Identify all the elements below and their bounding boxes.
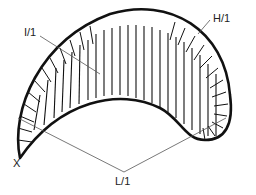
crescent-outline [18, 9, 231, 158]
diagram-canvas: I/1 H/1 X L/1 [0, 0, 256, 195]
label-l: L/1 [115, 176, 130, 187]
leader-h [198, 20, 210, 34]
interior-hatching [34, 25, 216, 136]
leader-lines [18, 20, 226, 172]
label-h: H/1 [213, 13, 230, 24]
label-x: X [13, 158, 20, 169]
crescent-shape [0, 0, 256, 195]
label-i: I/1 [24, 27, 36, 38]
